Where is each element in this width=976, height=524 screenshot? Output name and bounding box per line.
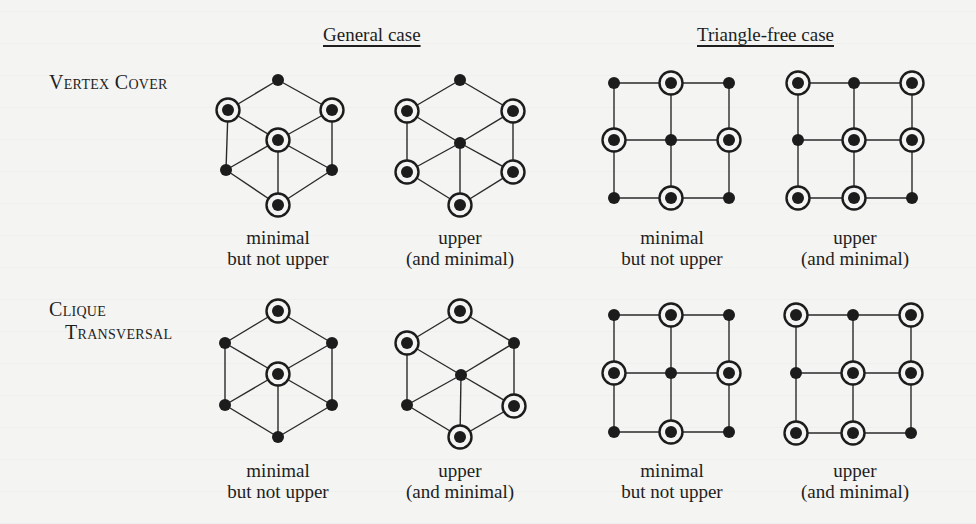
selected-vertex — [905, 367, 917, 379]
selected-vertex — [848, 134, 860, 146]
vertex — [454, 137, 466, 149]
vertex — [608, 309, 620, 321]
vertex — [608, 426, 620, 438]
vertex — [326, 399, 338, 411]
selected-vertex — [848, 192, 860, 204]
caption-line: but not upper — [198, 248, 358, 269]
vertex — [906, 192, 918, 204]
vertex — [723, 426, 735, 438]
graph-edge — [278, 405, 332, 437]
selected-vertex — [272, 134, 284, 146]
caption-vc-general-minimal: minimal but not upper — [198, 227, 358, 269]
selected-vertex — [665, 426, 677, 438]
caption-ct-trianglefree-minimal: minimal but not upper — [592, 460, 752, 502]
selected-vertex — [792, 192, 804, 204]
caption-line: upper — [380, 460, 540, 481]
selected-vertex — [508, 400, 520, 412]
caption-line: minimal — [198, 227, 358, 248]
vertex — [219, 337, 231, 349]
selected-vertex — [272, 305, 284, 317]
caption-line: upper — [380, 227, 540, 248]
vertex — [905, 427, 917, 439]
selected-vertex — [507, 105, 519, 117]
graph-vc-general-minimal — [217, 74, 344, 217]
vertex — [401, 399, 413, 411]
vertex — [608, 77, 620, 89]
graph-vc-trianglefree-upper — [787, 72, 924, 210]
selected-vertex — [790, 309, 802, 321]
graph-vc-general-upper — [396, 74, 525, 217]
selected-vertex — [847, 427, 859, 439]
selected-vertex — [401, 166, 413, 178]
selected-vertex — [401, 337, 413, 349]
selected-vertex — [454, 431, 466, 443]
caption-line: minimal — [198, 460, 358, 481]
selected-vertex — [454, 305, 466, 317]
caption-line: upper — [775, 460, 935, 481]
vertex — [665, 367, 677, 379]
selected-vertex — [272, 368, 284, 380]
selected-vertex — [847, 367, 859, 379]
selected-vertex — [665, 309, 677, 321]
vertex — [848, 77, 860, 89]
caption-line: (and minimal) — [775, 248, 935, 269]
selected-vertex — [723, 134, 735, 146]
caption-vc-trianglefree-upper: upper (and minimal) — [775, 227, 935, 269]
vertex — [272, 431, 284, 443]
vertex — [455, 369, 467, 381]
vertex — [723, 77, 735, 89]
selected-vertex — [906, 77, 918, 89]
caption-line: but not upper — [592, 481, 752, 502]
selected-vertex — [665, 192, 677, 204]
vertex — [454, 74, 466, 86]
caption-line: (and minimal) — [380, 481, 540, 502]
vertex — [723, 309, 735, 321]
caption-line: minimal — [592, 227, 752, 248]
selected-vertex — [665, 77, 677, 89]
graph-ct-trianglefree-minimal — [603, 304, 741, 444]
vertex — [508, 337, 520, 349]
selected-vertex — [792, 77, 804, 89]
vertex — [220, 164, 232, 176]
graph-ct-trianglefree-upper — [785, 304, 923, 445]
caption-line: (and minimal) — [775, 481, 935, 502]
selected-vertex — [454, 199, 466, 211]
selected-vertex — [608, 367, 620, 379]
vertex — [219, 399, 231, 411]
selected-vertex — [401, 105, 413, 117]
vertex — [847, 309, 859, 321]
graph-edge — [225, 405, 278, 437]
caption-line: upper — [775, 227, 935, 248]
selected-vertex — [723, 367, 735, 379]
selected-vertex — [326, 104, 338, 116]
caption-ct-trianglefree-upper: upper (and minimal) — [775, 460, 935, 502]
vertex — [608, 192, 620, 204]
selected-vertex — [507, 166, 519, 178]
graph-vc-trianglefree-minimal — [603, 72, 741, 210]
selected-vertex — [790, 427, 802, 439]
caption-ct-general-minimal: minimal but not upper — [198, 460, 358, 502]
graph-ct-general-upper — [396, 300, 526, 449]
vertex — [326, 164, 338, 176]
selected-vertex — [608, 134, 620, 146]
vertex — [723, 192, 735, 204]
vertex — [792, 134, 804, 146]
caption-vc-general-upper: upper (and minimal) — [380, 227, 540, 269]
caption-vc-trianglefree-minimal: minimal but not upper — [592, 227, 752, 269]
graph-ct-general-minimal — [219, 300, 338, 444]
caption-line: minimal — [592, 460, 752, 481]
caption-ct-general-upper: upper (and minimal) — [380, 460, 540, 502]
graph-edge — [407, 375, 461, 405]
vertex — [272, 74, 284, 86]
caption-line: but not upper — [198, 481, 358, 502]
selected-vertex — [222, 104, 234, 116]
selected-vertex — [272, 199, 284, 211]
caption-line: but not upper — [592, 248, 752, 269]
vertex — [790, 367, 802, 379]
vertex — [665, 134, 677, 146]
vertex — [326, 337, 338, 349]
selected-vertex — [906, 134, 918, 146]
selected-vertex — [905, 309, 917, 321]
graph-edge — [461, 343, 514, 375]
caption-line: (and minimal) — [380, 248, 540, 269]
